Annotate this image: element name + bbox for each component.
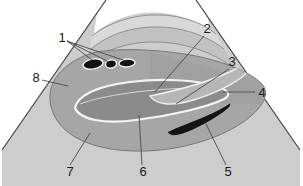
label-8: 8 [32,70,39,85]
label-3: 3 [228,54,235,69]
label-7: 7 [66,164,73,179]
label-6: 6 [139,164,146,179]
ultrasound-sector-diagram: 1 2 3 4 5 6 7 8 [0,0,303,186]
label-4: 4 [258,85,265,100]
label-1: 1 [58,30,65,45]
diagram-canvas: 1 2 3 4 5 6 7 8 [0,0,303,186]
label-5: 5 [224,164,231,179]
label-2: 2 [203,21,210,36]
